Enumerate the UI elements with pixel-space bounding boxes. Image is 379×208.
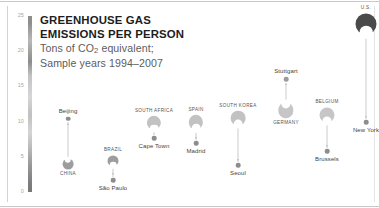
city-label: New York bbox=[353, 127, 379, 133]
city-marker[interactable] bbox=[364, 120, 369, 125]
pair-u-s-: U.S.New York bbox=[0, 0, 379, 208]
plot-area: CHINABeijingBRAZILSão PauloSOUTH AFRICAC… bbox=[0, 0, 379, 208]
infographic-chart: 2520151050 GREENHOUSE GAS EMISSIONS PER … bbox=[0, 0, 379, 208]
connector-line bbox=[366, 33, 367, 119]
direction-arrow-icon bbox=[365, 116, 367, 118]
country-label: U.S. bbox=[361, 6, 371, 11]
country-marker-notch bbox=[360, 26, 373, 39]
